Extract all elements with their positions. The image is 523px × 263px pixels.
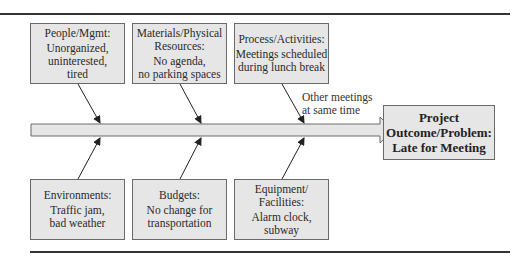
- cause-box-budgets: Budgets: No change for transportation: [132, 179, 227, 240]
- cause-category: Budgets:: [159, 189, 200, 202]
- branch-materials: [180, 84, 201, 123]
- cause-category-2: Facilities:: [259, 196, 304, 209]
- cause-text: subway: [264, 224, 299, 237]
- branch-equipment: [282, 138, 304, 179]
- cause-text: Unorganized,: [46, 42, 108, 55]
- cause-text: Meetings scheduled: [236, 48, 328, 61]
- cause-box-materials: Materials/Physical Resources: No agenda,…: [132, 23, 227, 84]
- cause-box-people: People/Mgmt: Unorganized, uninterested, …: [30, 23, 125, 84]
- branch-environments: [78, 138, 100, 179]
- cause-box-equipment: Equipment/ Facilities: Alarm clock, subw…: [234, 179, 329, 240]
- cause-text: during lunch break: [238, 61, 325, 74]
- outcome-text: Project: [419, 110, 459, 125]
- cause-category: Materials/Physical: [137, 27, 223, 40]
- cause-text: uninterested,: [48, 55, 107, 68]
- cause-text: no parking spaces: [138, 68, 220, 81]
- cause-text: transportation: [148, 217, 212, 230]
- cause-text: No agenda,: [153, 55, 205, 68]
- cause-text: bad weather: [50, 217, 106, 230]
- spine-note: Other meetings at same time: [302, 91, 373, 117]
- outcome-text: Late for Meeting: [392, 140, 486, 155]
- outcome-text: Outcome/Problem:: [386, 125, 492, 140]
- spine-note-line: Other meetings: [302, 91, 373, 104]
- spine-arrow: [31, 117, 394, 143]
- cause-box-environments: Environments: Traffic jam, bad weather: [30, 179, 125, 240]
- branch-budgets: [180, 138, 201, 179]
- cause-category: Environments:: [44, 189, 112, 202]
- cause-text: tired: [67, 68, 88, 81]
- branch-process: [282, 84, 304, 123]
- branch-people: [78, 84, 100, 123]
- cause-category: Equipment/: [255, 183, 309, 196]
- cause-text: No change for: [147, 204, 213, 217]
- spine-note-line: at same time: [302, 104, 373, 117]
- cause-category-2: Resources:: [154, 40, 204, 53]
- outcome-box: Project Outcome/Problem: Late for Meetin…: [383, 105, 495, 160]
- cause-text: Alarm clock,: [251, 211, 311, 224]
- cause-text: Traffic jam,: [50, 204, 104, 217]
- cause-category: People/Mgmt:: [45, 27, 111, 40]
- cause-box-process: Process/Activities: Meetings scheduled d…: [234, 23, 329, 84]
- cause-category: Process/Activities:: [238, 33, 324, 46]
